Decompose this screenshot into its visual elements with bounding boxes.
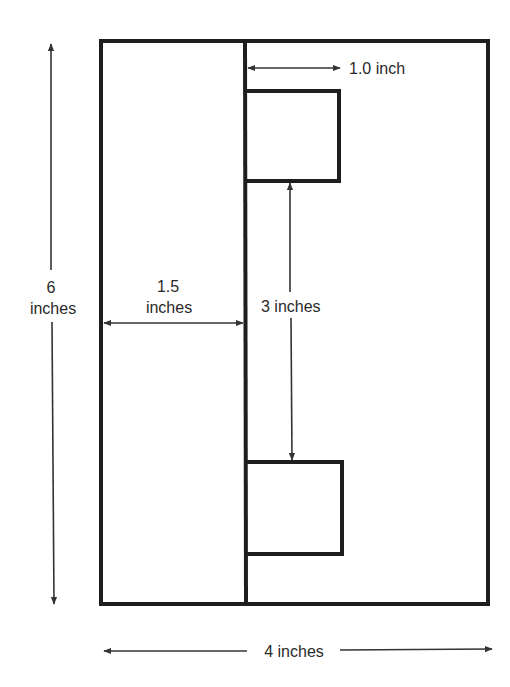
left-panel-unit-label: inches [146, 299, 192, 316]
lower-small-box [246, 462, 342, 554]
height-dimension-arrow [51, 44, 54, 604]
dimension-diagram: 6 inches 1.5 inches 1.0 inch 3 inches 4 … [0, 0, 510, 687]
box-gap-arrow [290, 183, 292, 460]
height-unit-label: inches [30, 300, 76, 317]
panel-divider-line [245, 41, 246, 604]
width-total-label: 4 inches [264, 643, 324, 660]
height-value-label: 6 [47, 279, 56, 296]
box-width-label: 1.0 inch [349, 60, 405, 77]
box-gap-label: 3 inches [261, 298, 321, 315]
upper-small-box [245, 91, 339, 181]
left-panel-value-label: 1.5 [157, 278, 179, 295]
